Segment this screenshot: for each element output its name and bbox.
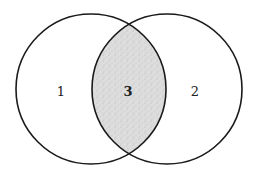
right-set-label: 2 (191, 84, 199, 99)
left-set-label: 1 (57, 84, 65, 99)
intersection-label: 3 (123, 84, 132, 99)
venn-diagram: 1 3 2 (0, 0, 255, 175)
venn-svg: 1 3 2 (0, 0, 255, 175)
